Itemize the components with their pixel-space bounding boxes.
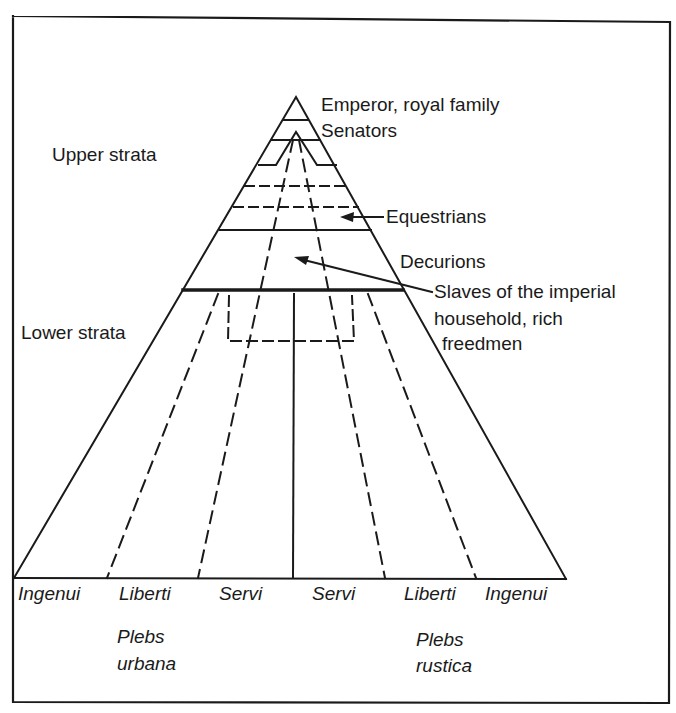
social-pyramid-diagram: Emperor, royal family Senators Equestria… — [0, 0, 676, 713]
label-senators: Senators — [321, 120, 397, 142]
label-slaves-line2: household, rich — [434, 308, 563, 330]
label-lower-strata: Lower strata — [21, 322, 126, 344]
label-emperor: Emperor, royal family — [321, 94, 499, 116]
label-slaves-line1: Slaves of the imperial — [434, 281, 616, 303]
servi-right-boundary — [299, 140, 385, 578]
pyramid-base — [14, 578, 566, 579]
label-plebs-urbana-1: Plebs — [117, 626, 165, 648]
label-equestrians: Equestrians — [386, 206, 486, 228]
urban-rural-divider — [293, 294, 294, 578]
servi-left-boundary — [198, 140, 293, 578]
label-decurions: Decurions — [400, 251, 486, 273]
equestrians-arrowhead — [340, 212, 354, 222]
label-servi-rural: Servi — [312, 583, 355, 605]
imperial-household-box — [228, 296, 354, 341]
label-ingenui-rural: Ingenui — [485, 583, 547, 605]
label-plebs-rustica-1: Plebs — [416, 629, 464, 651]
label-slaves-line3: freedmen — [442, 333, 522, 355]
label-plebs-rustica-2: rustica — [416, 655, 472, 677]
label-liberti-urban: Liberti — [119, 583, 171, 605]
label-servi-urban: Servi — [219, 583, 262, 605]
slaves-arrowhead — [294, 256, 309, 265]
label-upper-strata: Upper strata — [52, 144, 157, 166]
label-liberti-rural: Liberti — [404, 583, 456, 605]
label-ingenui-urban: Ingenui — [18, 583, 80, 605]
label-plebs-urbana-2: urbana — [117, 653, 176, 675]
